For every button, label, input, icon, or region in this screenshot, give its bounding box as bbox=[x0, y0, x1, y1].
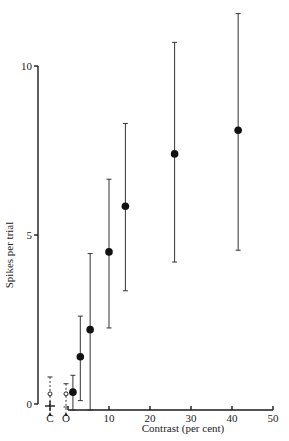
axes: 05101020304050 bbox=[21, 60, 279, 424]
x-axis-title: Contrast (per cent) bbox=[142, 422, 225, 435]
filled-circle-marker bbox=[171, 150, 179, 158]
filled-circle-marker bbox=[86, 326, 94, 334]
filled-circle-marker bbox=[122, 202, 130, 210]
contrast-response-chart: 05101020304050 Contrast (per cent) Spike… bbox=[0, 0, 289, 441]
filled-circle-marker bbox=[77, 353, 85, 361]
filled-circle-marker bbox=[234, 126, 242, 134]
y-tick-label: 0 bbox=[27, 398, 33, 410]
data-point bbox=[86, 254, 94, 410]
data-series bbox=[69, 14, 242, 410]
data-point bbox=[122, 123, 130, 290]
y-axis-title: Spikes per trial bbox=[3, 222, 15, 289]
filled-circle-marker bbox=[69, 388, 77, 396]
data-point bbox=[234, 14, 242, 251]
filled-circle-marker bbox=[105, 248, 113, 256]
data-point bbox=[77, 316, 85, 401]
data-point bbox=[171, 42, 179, 262]
data-point bbox=[69, 375, 77, 410]
axis-labels: Contrast (per cent) Spikes per trial C O bbox=[3, 222, 225, 435]
open-circle-marker bbox=[64, 392, 68, 396]
x-tick-label: 50 bbox=[268, 412, 280, 424]
control-label-c: C bbox=[46, 412, 53, 424]
x-tick-label: 40 bbox=[227, 412, 239, 424]
y-tick-label: 10 bbox=[21, 60, 33, 72]
open-circle-marker bbox=[48, 392, 52, 396]
data-point bbox=[105, 179, 113, 328]
control-points bbox=[45, 377, 69, 416]
y-tick-label: 5 bbox=[27, 229, 33, 241]
control-label-o: O bbox=[62, 412, 70, 424]
x-tick-label: 10 bbox=[104, 412, 116, 424]
